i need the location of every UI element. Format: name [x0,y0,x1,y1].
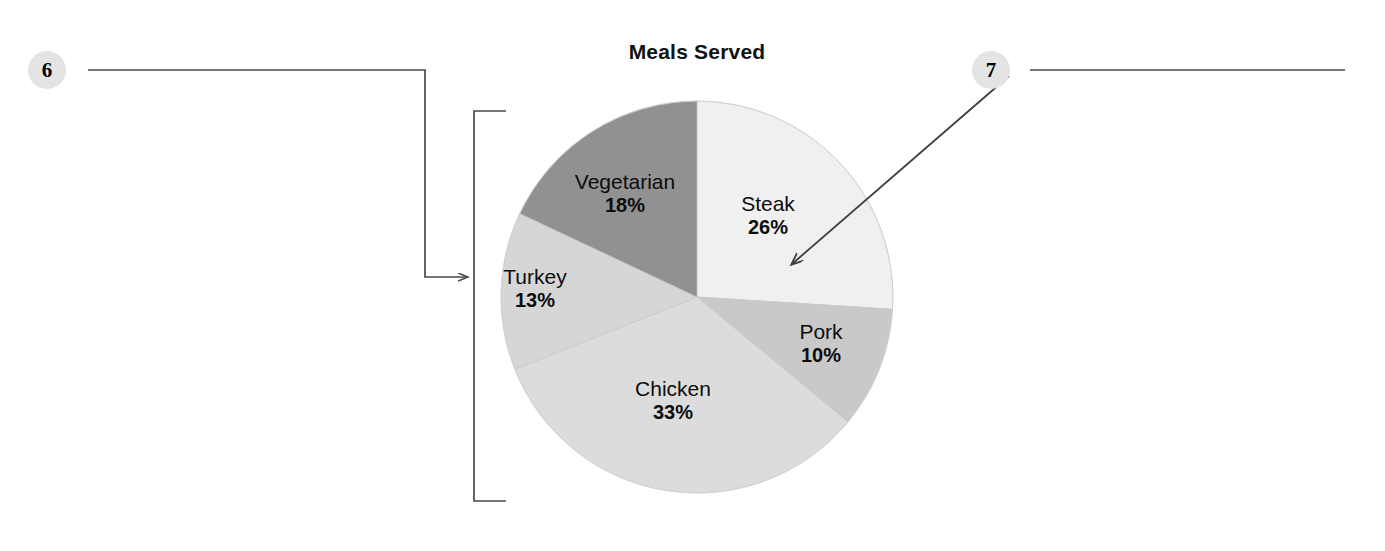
callout-badge-6[interactable]: 6 [28,51,66,89]
pie-chart-figure [0,0,1385,551]
pie-slice-steak[interactable] [697,101,893,309]
figure-canvas: Meals Served Steak 26% Pork 10% Chicken … [0,0,1385,551]
callout-6-leader-line [88,70,468,277]
chart-title: Meals Served [497,40,897,64]
callout-badge-7[interactable]: 7 [972,51,1010,89]
